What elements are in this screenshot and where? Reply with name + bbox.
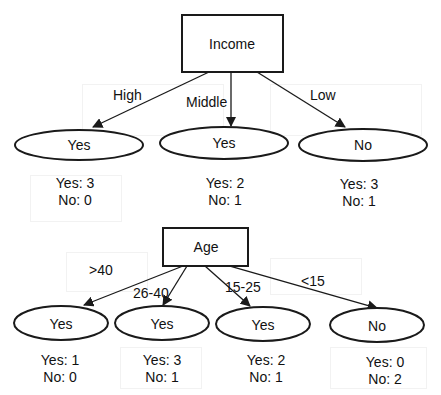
edge-label-low: Low xyxy=(310,87,336,103)
no-count: No: 2 xyxy=(366,371,404,388)
no-count: No: 1 xyxy=(340,193,378,210)
leaf-counts: Yes: 2 No: 1 xyxy=(247,352,285,386)
leaf-counts: Yes: 0 No: 2 xyxy=(366,354,404,388)
yes-count: Yes: 1 xyxy=(41,352,79,369)
leaf-label: Yes xyxy=(50,316,73,332)
no-count: No: 0 xyxy=(41,369,79,386)
leaf-label: Yes xyxy=(151,316,174,332)
leaf-label: No xyxy=(354,137,372,153)
yes-count: Yes: 2 xyxy=(206,175,244,192)
edge-label-26-40: 26-40 xyxy=(133,285,169,301)
yes-count: Yes: 3 xyxy=(340,176,378,193)
yes-count: Yes: 3 xyxy=(56,175,94,192)
leaf-label: Yes xyxy=(213,135,236,151)
no-count: No: 0 xyxy=(56,192,94,209)
edge-label-high: High xyxy=(113,87,142,103)
no-count: No: 1 xyxy=(206,192,244,209)
leaf-counts: Yes: 3 No: 1 xyxy=(340,176,378,210)
age-node-label: Age xyxy=(194,239,219,255)
no-count: No: 1 xyxy=(143,369,181,386)
yes-count: Yes: 0 xyxy=(366,354,404,371)
edge-label-15-25: 15-25 xyxy=(225,279,261,295)
edge-label-lt15: <15 xyxy=(301,273,325,289)
leaf-label: Yes xyxy=(68,137,91,153)
yes-count: Yes: 3 xyxy=(143,352,181,369)
leaf-counts: Yes: 2 No: 1 xyxy=(206,175,244,209)
no-count: No: 1 xyxy=(247,369,285,386)
edge-label-middle: Middle xyxy=(186,94,227,110)
leaf-counts: Yes: 3 No: 0 xyxy=(56,175,94,209)
leaf-label: Yes xyxy=(252,317,275,333)
yes-count: Yes: 2 xyxy=(247,352,285,369)
leaf-label: No xyxy=(368,318,386,334)
leaf-counts: Yes: 3 No: 1 xyxy=(143,352,181,386)
edge-label-gt40: >40 xyxy=(89,262,113,278)
income-node-label: Income xyxy=(209,36,255,52)
leaf-counts: Yes: 1 No: 0 xyxy=(41,352,79,386)
